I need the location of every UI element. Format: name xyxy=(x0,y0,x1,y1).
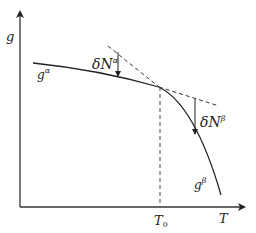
delta-n-alpha-label: δNα xyxy=(92,57,118,71)
beta-curve-label: gβ xyxy=(194,177,206,191)
y-axis-label: g xyxy=(6,30,14,43)
alpha-curve-label: gα xyxy=(37,67,50,81)
beta-curve xyxy=(159,87,221,195)
x-axis-label: T xyxy=(219,212,228,225)
phase-free-energy-diagram: g gα δNα δNβ gβ T0 T xyxy=(0,0,256,233)
t0-label: T0 xyxy=(154,214,168,229)
alpha-tangent-dashed xyxy=(159,87,219,106)
delta-n-beta-label: δNβ xyxy=(200,115,225,129)
